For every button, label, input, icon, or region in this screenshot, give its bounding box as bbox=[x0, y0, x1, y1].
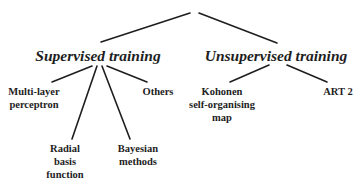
edge-supervised-mlp bbox=[52, 66, 92, 82]
edge-supervised-rbf bbox=[72, 66, 97, 139]
node-unsupervised-training: Unsupervised training bbox=[205, 48, 348, 64]
edge-unsupervised-kohonen bbox=[230, 65, 269, 82]
node-multi-layer-perceptron: Multi-layer perceptron bbox=[8, 85, 59, 111]
node-label-line: ART 2 bbox=[323, 85, 353, 98]
node-supervised-training: Supervised training bbox=[35, 48, 160, 64]
node-label-line: map bbox=[189, 111, 255, 124]
edge-root-supervised bbox=[101, 13, 190, 42]
edge-root-unsupervised bbox=[199, 13, 277, 43]
node-label-line: Others bbox=[143, 85, 174, 98]
node-bayesian-methods: Bayesian methods bbox=[118, 142, 158, 168]
node-kohonen-self-organising-map: Kohonen self-organising map bbox=[189, 85, 255, 124]
node-label-line: Bayesian bbox=[118, 142, 158, 155]
edge-supervised-bayes bbox=[102, 66, 130, 139]
edge-unsupervised-art2 bbox=[287, 65, 327, 82]
node-label: Unsupervised training bbox=[205, 47, 348, 64]
node-label-line: basis bbox=[46, 155, 83, 168]
node-label-line: self-organising bbox=[189, 98, 255, 111]
edge-supervised-others bbox=[107, 66, 147, 82]
node-others: Others bbox=[143, 85, 174, 98]
node-label-line: perceptron bbox=[8, 98, 59, 111]
node-label-line: Radial bbox=[46, 142, 83, 155]
node-label-line: function bbox=[46, 168, 83, 181]
node-label-line: methods bbox=[118, 155, 158, 168]
training-taxonomy-diagram: Supervised training Unsupervised trainin… bbox=[0, 0, 363, 185]
node-art-2: ART 2 bbox=[323, 85, 353, 98]
node-label: Supervised training bbox=[35, 47, 160, 64]
node-radial-basis-function: Radial basis function bbox=[46, 142, 83, 181]
node-label-line: Multi-layer bbox=[8, 85, 59, 98]
node-label-line: Kohonen bbox=[189, 85, 255, 98]
